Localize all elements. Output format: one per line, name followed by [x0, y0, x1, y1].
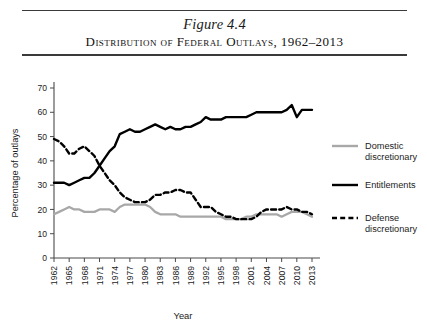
x-tick-label: 1995	[216, 266, 226, 285]
y-tick-label: 20	[37, 205, 47, 215]
series-line-domestic-discretionary	[54, 205, 312, 220]
legend-label-defense-discretionary: Defense	[365, 213, 399, 223]
x-tick-label: 1980	[140, 266, 150, 285]
x-tick-label: 1989	[186, 266, 196, 285]
figure-title: Distribution of Federal Outlays, 1962–20…	[22, 33, 407, 50]
chart-series-group	[54, 105, 312, 219]
x-tick-label: 2010	[292, 266, 302, 285]
header-bottom-rule	[22, 54, 407, 56]
line-chart: 010203040506070 196219651968197119741977…	[0, 72, 427, 332]
x-tick-label: 2013	[307, 266, 317, 285]
x-tick-label: 2001	[246, 266, 256, 285]
y-tick-label: 70	[37, 83, 47, 93]
x-tick-label: 2004	[262, 266, 272, 285]
y-tick-label: 50	[37, 132, 47, 142]
chart-plot-area: 010203040506070 196219651968197119741977…	[0, 72, 427, 332]
y-axis-ticks: 010203040506070	[37, 83, 54, 263]
x-tick-label: 1971	[95, 266, 105, 285]
chart-legend: DomesticdiscretionaryEntitlementsDefense…	[332, 141, 417, 234]
x-tick-label: 1983	[155, 266, 165, 285]
x-axis-ticks: 1962196519681971197419771980198319861989…	[49, 258, 317, 285]
legend-label-entitlements: Entitlements	[365, 180, 416, 190]
figure-header: Figure 4.4 Distribution of Federal Outla…	[22, 10, 407, 56]
figure-number: Figure 4.4	[22, 16, 407, 33]
x-tick-label: 1974	[110, 266, 120, 285]
series-line-entitlements	[54, 105, 312, 185]
x-tick-label: 1968	[80, 266, 90, 285]
y-tick-label: 30	[37, 180, 47, 190]
x-tick-label: 1965	[64, 266, 74, 285]
y-tick-label: 40	[37, 156, 47, 166]
legend-label-domestic-discretionary: Domestic	[365, 141, 404, 151]
legend-label-domestic-discretionary-line2: discretionary	[365, 152, 417, 162]
legend-label-defense-discretionary-line2: discretionary	[365, 224, 417, 234]
x-tick-label: 1977	[125, 266, 135, 285]
page-bleed-text	[14, 322, 414, 330]
x-tick-label: 1998	[231, 266, 241, 285]
x-tick-label: 1986	[171, 266, 181, 285]
figure-container: Figure 4.4 Distribution of Federal Outla…	[0, 0, 427, 332]
x-tick-label: 2007	[277, 266, 287, 285]
x-tick-label: 1992	[201, 266, 211, 285]
x-tick-label: 1962	[49, 266, 59, 285]
series-line-defense-discretionary	[54, 139, 312, 219]
x-axis-title: Year	[174, 310, 193, 321]
y-axis-title: Percentage of outlays	[10, 128, 20, 217]
y-tick-label: 60	[37, 107, 47, 117]
y-tick-label: 10	[37, 229, 47, 239]
y-tick-label: 0	[42, 253, 47, 263]
